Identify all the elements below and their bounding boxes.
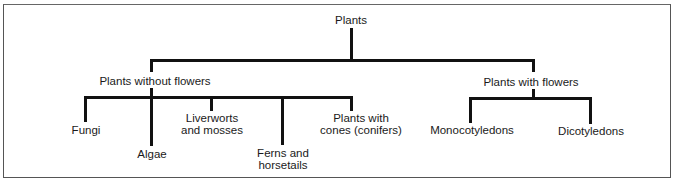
node-liverworts-line2: and mosses <box>181 124 243 136</box>
connector-to-fungi <box>84 96 87 122</box>
node-algae: Algae <box>137 148 166 160</box>
node-dicotyledons: Dicotyledons <box>558 125 624 137</box>
node-plants-with-flowers: Plants with flowers <box>483 76 578 88</box>
node-fungi: Fungi <box>72 124 101 136</box>
node-conifers-line2: cones (conifers) <box>320 124 402 136</box>
connector-to-dicotyledons <box>589 97 592 124</box>
connector-level1-bar <box>150 59 534 62</box>
node-plants: Plants <box>335 14 367 26</box>
node-monocotyledons: Monocotyledons <box>430 124 514 136</box>
node-plants-without-flowers: Plants without flowers <box>99 75 210 87</box>
connector-to-without-flowers <box>150 59 153 72</box>
diagram-frame <box>3 4 671 178</box>
connector-with-flowers-bar <box>469 97 592 100</box>
connector-to-monocotyledons <box>469 97 472 123</box>
connector-root-stem <box>350 28 353 61</box>
connector-without-flowers-bar <box>84 96 353 99</box>
node-ferns-line2: horsetails <box>258 159 307 171</box>
node-liverworts-line1: Liverworts <box>186 112 238 124</box>
node-conifers-line1: Plants with <box>333 112 389 124</box>
connector-to-ferns <box>281 96 284 145</box>
connector-to-with-flowers <box>532 59 535 72</box>
node-ferns-line1: Ferns and <box>257 147 309 159</box>
connector-to-liverworts <box>210 96 213 111</box>
connector-to-conifers <box>350 96 353 111</box>
